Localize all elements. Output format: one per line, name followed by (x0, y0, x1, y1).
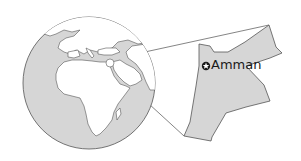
globe (23, 16, 158, 149)
jordan-inset (184, 25, 282, 141)
star-in-circle-icon (202, 62, 210, 70)
capital-label: Amman (211, 57, 261, 72)
location-highlight (106, 59, 114, 67)
locator-map (0, 0, 301, 161)
